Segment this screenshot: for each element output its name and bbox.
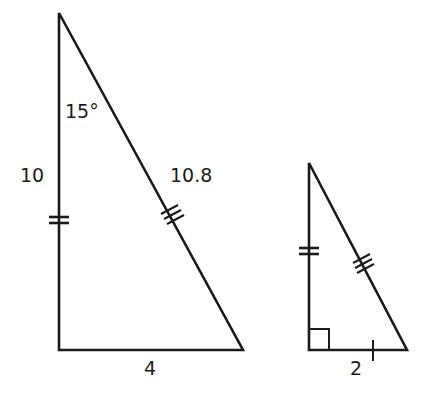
large-triangle [59,13,243,350]
angle-label: 15° [65,100,99,122]
large-base-label: 4 [144,357,156,379]
left-side-label: 10 [20,164,44,186]
small-triangle [309,163,407,350]
hypotenuse-label: 10.8 [170,164,212,186]
triangles-figure: 15° 10 10.8 4 2 [0,0,421,400]
small-base-label: 2 [350,357,362,379]
right-angle-mark [309,329,329,350]
small-hyp-ticks [353,254,374,273]
